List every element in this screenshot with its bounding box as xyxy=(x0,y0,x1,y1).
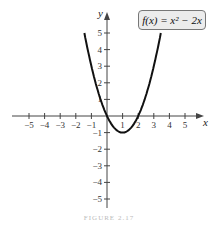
x-tick-label: −5 xyxy=(24,120,34,130)
x-tick-label: 3 xyxy=(152,120,157,130)
x-tick-label: −4 xyxy=(40,120,50,130)
x-tick-label: −3 xyxy=(55,120,65,130)
x-axis-label: x xyxy=(202,116,208,128)
y-axis-label: y xyxy=(97,7,103,19)
x-tick-label: 5 xyxy=(183,120,188,130)
y-tick-label: −5 xyxy=(92,194,102,204)
y-tick-label: −3 xyxy=(92,161,102,171)
y-tick-label: 2 xyxy=(98,78,103,88)
y-tick-label: −2 xyxy=(92,144,102,154)
y-tick-label: 5 xyxy=(98,28,103,38)
x-tick-label: 4 xyxy=(167,120,172,130)
x-tick-label: 2 xyxy=(136,120,141,130)
chart-plot: xy−5−4−3−2−112345−5−4−3−2−112345 xyxy=(0,0,218,227)
x-tick-label: −2 xyxy=(71,120,81,130)
y-tick-label: 4 xyxy=(98,45,103,55)
y-tick-label: 3 xyxy=(98,61,103,71)
y-tick-label: −1 xyxy=(92,128,102,138)
y-tick-label: −4 xyxy=(92,177,102,187)
function-label: f(x) = x² − 2x xyxy=(138,10,206,30)
figure-caption: FIGURE 2.17 xyxy=(0,214,218,222)
x-tick-label: 1 xyxy=(120,120,125,130)
y-axis-arrow-icon xyxy=(104,12,110,20)
